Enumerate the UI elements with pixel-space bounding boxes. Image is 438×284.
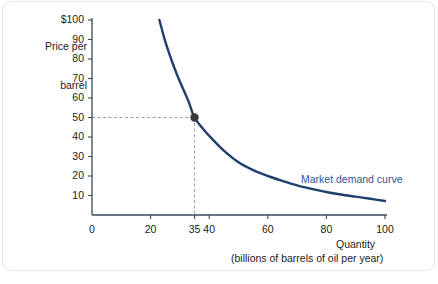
equilibrium-point-marker	[190, 113, 198, 121]
plot-area	[0, 0, 438, 284]
guide-lines	[92, 118, 195, 216]
demand-curve-path	[159, 20, 385, 201]
axis-lines	[92, 18, 387, 215]
demand-curve-figure: Price per barrel Quantity (billions of b…	[0, 0, 438, 284]
annotation-markers	[190, 113, 198, 121]
series-layer	[159, 20, 385, 201]
axis-ticks	[88, 20, 385, 219]
